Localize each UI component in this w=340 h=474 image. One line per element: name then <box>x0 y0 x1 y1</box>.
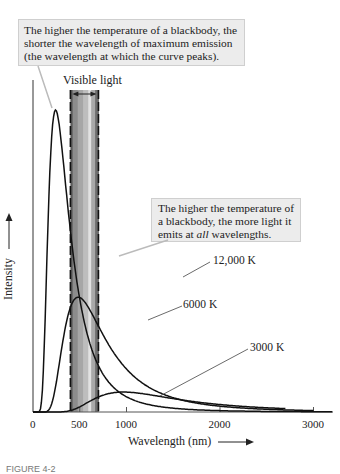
series-label-12000k: 12,000 K <box>213 254 256 266</box>
x-tick-label: 0 <box>30 418 36 430</box>
y-axis-label-text: Intensity <box>1 258 15 300</box>
x-tick-label: 500 <box>71 418 88 430</box>
series-label-6000k: 6000 K <box>183 298 217 310</box>
series-label-3000k: 3000 K <box>250 341 284 353</box>
x-tick-label: 3000 <box>302 418 324 430</box>
y-axis-arrow-icon <box>2 213 17 249</box>
leader-lines <box>38 66 248 396</box>
x-tick-label: 1000 <box>115 418 137 430</box>
x-axis-arrow-icon <box>218 435 254 450</box>
x-axis-label: Wavelength (nm) <box>128 434 254 450</box>
figure-caption: FIGURE 4-2 <box>6 464 56 474</box>
y-axis-label: Intensity <box>1 213 17 300</box>
visible-band <box>70 90 99 412</box>
x-tick-label: 2000 <box>208 418 230 430</box>
x-axis-label-text: Wavelength (nm) <box>128 434 211 448</box>
